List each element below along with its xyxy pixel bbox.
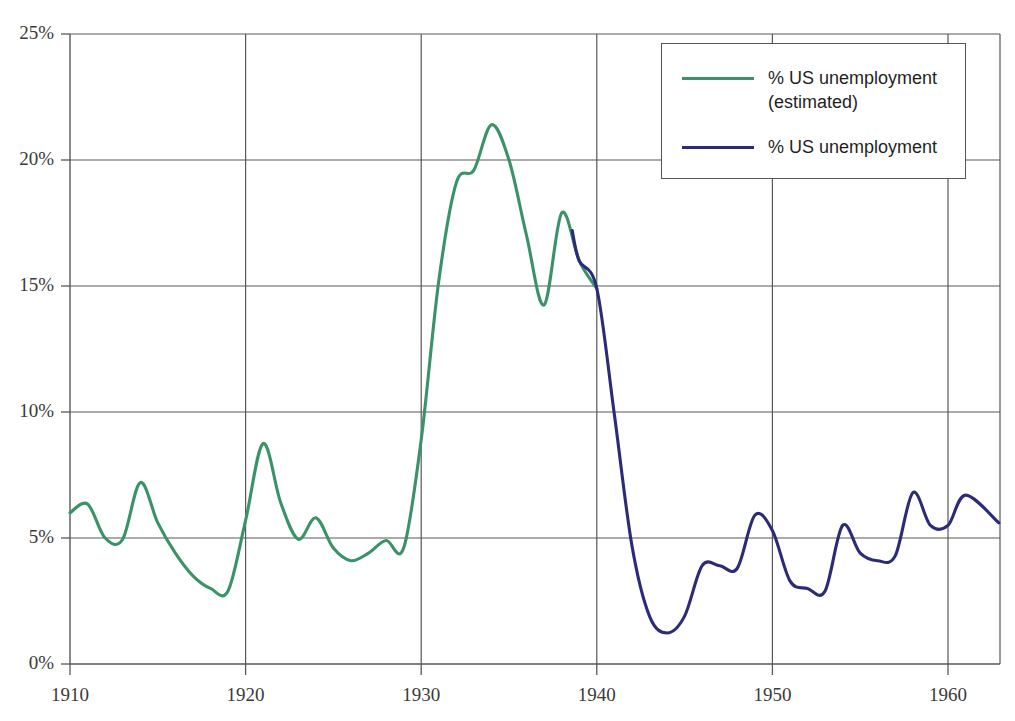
y-tick-label: 5%	[0, 526, 54, 548]
x-tick-label: 1950	[712, 684, 832, 706]
x-tick-label: 1920	[186, 684, 306, 706]
legend-label: % US unemployment	[768, 135, 937, 159]
legend-color-swatch	[682, 77, 754, 80]
y-tick-label: 25%	[0, 22, 54, 44]
y-tick-label: 15%	[0, 274, 54, 296]
x-tick-label: 1930	[361, 684, 481, 706]
chart-legend: % US unemployment (estimated)% US unempl…	[661, 43, 966, 179]
y-tick-label: 20%	[0, 148, 54, 170]
legend-entry[interactable]: % US unemployment (estimated)	[682, 66, 937, 114]
y-tick-label: 0%	[0, 652, 54, 674]
series-line-1	[572, 231, 999, 633]
legend-label: % US unemployment (estimated)	[768, 66, 937, 114]
y-tick-label: 10%	[0, 400, 54, 422]
x-tick-label: 1960	[888, 684, 1008, 706]
legend-color-swatch	[682, 146, 754, 149]
x-tick-label: 1940	[537, 684, 657, 706]
data-series	[70, 125, 999, 633]
series-line-0	[70, 125, 597, 596]
x-tick-label: 1910	[10, 684, 130, 706]
unemployment-line-chart: 0%5%10%15%20%25% 19101920193019401950196…	[0, 0, 1015, 721]
legend-entry[interactable]: % US unemployment	[682, 135, 937, 159]
